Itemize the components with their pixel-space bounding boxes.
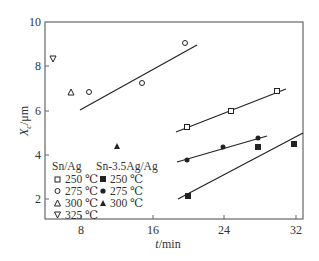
legend-snag35-250: 250 ℃ <box>110 173 143 185</box>
series-snag35-250 <box>185 141 297 199</box>
fit-line-snag-275 <box>80 45 197 110</box>
x-tick-24: 24 <box>218 223 230 237</box>
growth-chart: 10 8 6 4 2 8 16 24 32 t/min Xc/μm Sn/Ag … <box>0 0 319 261</box>
legend: Sn/Ag Sn-3.5Ag/Ag 250 ℃ 275 ℃ 300 ℃ 325 … <box>52 160 158 221</box>
legend-title-snag: Sn/Ag <box>52 160 82 173</box>
legend-snag-250: 250 ℃ <box>65 173 98 185</box>
x-tick-8: 8 <box>78 223 84 237</box>
legend-snag-275: 275 ℃ <box>65 185 98 197</box>
legend-snag35-275: 275 ℃ <box>110 185 143 197</box>
x-axis-label: t/min <box>155 237 180 251</box>
y-tick-6: 6 <box>35 104 41 118</box>
x-tick-16: 16 <box>147 223 159 237</box>
legend-snag-325: 325 ℃ <box>65 209 98 221</box>
triangle-up-marker <box>68 89 74 95</box>
legend-snag-300: 300 ℃ <box>65 197 98 209</box>
y-tick-10: 10 <box>29 15 41 29</box>
series-snag-300 <box>68 89 74 95</box>
x-tick-labels: 8 16 24 32 <box>78 223 302 237</box>
series-snag35-300 <box>114 143 120 149</box>
filled-triangle-marker <box>114 143 120 149</box>
triangle-down-marker <box>50 56 56 62</box>
series-snag-275 <box>87 41 188 95</box>
legend-title-snag35: Sn-3.5Ag/Ag <box>96 160 158 173</box>
series-snag35-275 <box>185 136 261 163</box>
fit-line-snag35-250 <box>178 133 303 199</box>
x-tick-32: 32 <box>290 223 302 237</box>
y-axis-label: Xc/μm <box>17 105 33 137</box>
x-axis <box>81 215 296 219</box>
y-tick-8: 8 <box>35 59 41 73</box>
y-tick-2: 2 <box>35 192 41 206</box>
legend-snag35-300: 300 ℃ <box>110 197 143 209</box>
series-snag-325 <box>50 56 56 62</box>
y-tick-4: 4 <box>35 148 41 162</box>
